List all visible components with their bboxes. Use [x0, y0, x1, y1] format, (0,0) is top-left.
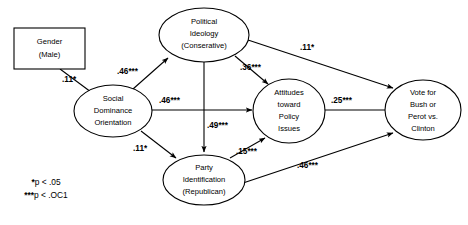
- node-label-gender-line-1: Gender: [37, 37, 63, 46]
- node-political-ideology[interactable]: Political Ideology (Conserative): [159, 8, 249, 62]
- significance-legend: *p < .05 ***p < .OC1: [24, 177, 68, 200]
- node-gender[interactable]: Gender (Male): [14, 28, 85, 69]
- edge-line-sdo-to-ideology: [133, 58, 168, 89]
- node-label-vote-line-3: Perot vs.: [408, 112, 438, 121]
- path-diagram-canvas: .11* .46*** .46*** .36*** .11* .49***: [0, 0, 468, 225]
- edge-attitudes-to-vote: .25***: [325, 96, 392, 110]
- node-label-vote-line-4: Clinton: [411, 124, 435, 133]
- edge-ideology-to-vote: .11*: [248, 40, 393, 88]
- edge-label-ideology-to-vote: .11*: [300, 43, 315, 52]
- edge-party-to-vote: .46***: [243, 133, 393, 183]
- edge-label-gender-to-sdo: .11*: [62, 75, 77, 84]
- edge-label-ideology-to-party: .49***: [207, 121, 229, 130]
- node-label-attitudes-line-4: Issues: [278, 124, 300, 133]
- node-label-political-ideology-line-2: Ideology: [190, 29, 219, 38]
- edge-label-sdo-to-party: .11*: [133, 144, 148, 153]
- legend-line-1: *p < .05: [31, 177, 60, 187]
- edge-label-party-to-vote: .46***: [297, 161, 319, 170]
- path-diagram-svg: .11* .46*** .46*** .36*** .11* .49***: [0, 0, 468, 225]
- edge-party-to-attitudes: .15***: [230, 138, 265, 158]
- node-social-dominance-orientation[interactable]: Social Dominance Orientation: [74, 85, 152, 137]
- node-label-party-line-3: (Republican): [182, 187, 226, 196]
- node-label-vote-line-2: Bush or: [410, 100, 437, 109]
- node-label-vote-line-1: Vote for: [410, 88, 437, 97]
- legend-line-2: ***p < .OC1: [24, 190, 68, 200]
- node-label-sdo-line-2: Dominance: [94, 106, 132, 115]
- edge-line-ideology-to-vote: [248, 40, 393, 88]
- node-shape-gender: [14, 28, 85, 69]
- node-party-identification[interactable]: Party Identification (Republican): [163, 155, 245, 205]
- node-attitudes-toward-policy-issues[interactable]: Attitudes toward Policy Issues: [253, 79, 325, 143]
- legend-line-2-text: p < .OC1: [34, 190, 68, 200]
- edge-line-party-to-vote: [243, 133, 393, 183]
- edge-sdo-to-attitudes: .46***: [152, 96, 252, 110]
- edge-label-sdo-to-ideology: .46***: [117, 67, 139, 76]
- node-label-party-line-1: Party: [195, 163, 213, 172]
- node-label-gender-line-2: (Male): [39, 50, 61, 59]
- node-label-sdo-line-3: Orientation: [94, 118, 131, 127]
- node-label-political-ideology-line-1: Political: [191, 17, 217, 26]
- node-label-attitudes-line-3: Policy: [279, 112, 299, 121]
- edge-sdo-to-party: .11*: [133, 131, 176, 158]
- edge-label-sdo-to-attitudes: .46***: [159, 96, 181, 105]
- edge-ideology-to-attitudes: .36***: [235, 56, 268, 84]
- node-label-attitudes-line-2: toward: [278, 100, 301, 109]
- node-label-attitudes-line-1: Attitudes: [274, 88, 304, 97]
- edge-label-party-to-attitudes: .15***: [236, 147, 258, 156]
- edge-sdo-to-ideology: .46***: [117, 58, 168, 89]
- edge-label-ideology-to-attitudes: .36***: [240, 63, 262, 72]
- legend-line-1-text: p < .05: [35, 177, 61, 187]
- node-label-political-ideology-line-3: (Conserative): [181, 41, 227, 50]
- edge-ideology-to-party: .49***: [204, 62, 229, 152]
- node-vote-outcome[interactable]: Vote for Bush or Perot vs. Clinton: [385, 80, 461, 140]
- node-label-party-line-2: Identification: [183, 175, 226, 184]
- node-label-sdo-line-1: Social: [103, 94, 124, 103]
- edge-label-attitudes-to-vote: .25***: [331, 96, 353, 105]
